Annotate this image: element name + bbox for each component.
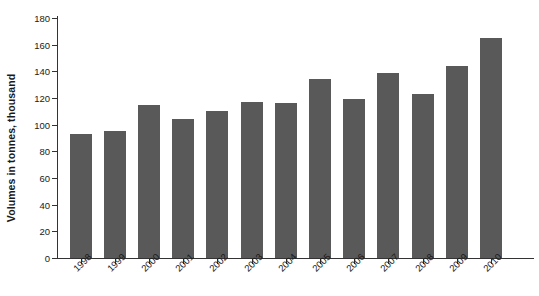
y-axis-tick bbox=[52, 258, 58, 259]
y-axis-tick-label: 100 bbox=[6, 119, 50, 130]
bar-1999 bbox=[104, 131, 126, 258]
bar-2009 bbox=[446, 66, 468, 258]
bar-1998 bbox=[70, 134, 92, 258]
y-axis-tick-label: 180 bbox=[6, 13, 50, 24]
bar-2006 bbox=[343, 99, 365, 258]
y-axis-tick-label: 0 bbox=[6, 253, 50, 264]
bar-2010 bbox=[480, 38, 502, 258]
y-axis-tick-labels: 020406080100120140160180 bbox=[0, 0, 50, 296]
y-axis-tick-label: 60 bbox=[6, 173, 50, 184]
y-axis-tick-label: 160 bbox=[6, 39, 50, 50]
bar-2007 bbox=[377, 73, 399, 258]
bar-2004 bbox=[275, 103, 297, 258]
y-axis-tick-label: 120 bbox=[6, 93, 50, 104]
bar-2003 bbox=[241, 102, 263, 258]
y-axis-tick-label: 20 bbox=[6, 226, 50, 237]
plot-area bbox=[58, 18, 533, 258]
bar-2001 bbox=[172, 119, 194, 258]
y-axis-tick-label: 80 bbox=[6, 146, 50, 157]
bar-2008 bbox=[412, 94, 434, 258]
bar-2005 bbox=[309, 79, 331, 258]
y-axis-tick-label: 140 bbox=[6, 66, 50, 77]
bar-chart: Volumes in tonnes, thousand 020406080100… bbox=[0, 0, 539, 296]
bar-2000 bbox=[138, 105, 160, 258]
bar-2002 bbox=[206, 111, 228, 258]
y-axis-tick-label: 40 bbox=[6, 199, 50, 210]
